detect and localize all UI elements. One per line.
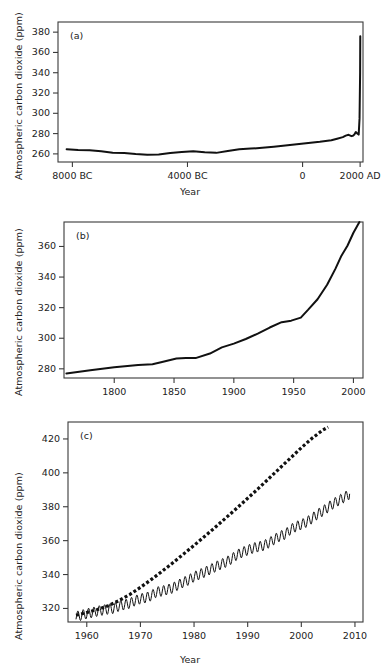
y-tick-label: 300 bbox=[18, 107, 50, 118]
panel-c-x-axis-label: Year bbox=[0, 654, 380, 665]
y-tick-label: 360 bbox=[24, 240, 56, 251]
y-tick-label: 380 bbox=[28, 501, 60, 512]
panel-b-plot bbox=[0, 200, 380, 410]
y-tick-label: 320 bbox=[28, 602, 60, 613]
y-tick-label: 340 bbox=[24, 271, 56, 282]
y-tick-label: 320 bbox=[24, 302, 56, 313]
y-tick-label: 380 bbox=[18, 26, 50, 37]
y-tick-label: 340 bbox=[18, 67, 50, 78]
y-tick-label: 400 bbox=[28, 467, 60, 478]
panel-a-tag: (a) bbox=[70, 30, 83, 41]
panel-a: Atmospheric carbon dioxide (ppm) (a) Yea… bbox=[0, 0, 380, 200]
x-tick-label: 2000 AD bbox=[325, 170, 385, 181]
y-tick-label: 420 bbox=[28, 433, 60, 444]
panel-a-x-axis-label: Year bbox=[0, 186, 380, 197]
y-tick-label: 360 bbox=[18, 46, 50, 57]
y-tick-label: 300 bbox=[24, 332, 56, 343]
x-tick-label: 4000 BC bbox=[152, 170, 222, 181]
y-tick-label: 260 bbox=[18, 148, 50, 159]
x-tick-label: 2010 bbox=[320, 630, 385, 641]
y-tick-label: 340 bbox=[28, 569, 60, 580]
panel-c-tag: (c) bbox=[80, 430, 93, 441]
y-tick-label: 360 bbox=[28, 535, 60, 546]
x-tick-label: 2000 bbox=[318, 386, 385, 397]
y-tick-label: 320 bbox=[18, 87, 50, 98]
panel-b: Atmospheric carbon dioxide (ppm) (b) 280… bbox=[0, 200, 380, 410]
y-tick-label: 280 bbox=[24, 363, 56, 374]
x-tick-label: 8000 BC bbox=[37, 170, 107, 181]
panel-c: Atmospheric carbon dioxide (ppm) (c) Yea… bbox=[0, 410, 380, 672]
y-tick-label: 280 bbox=[18, 128, 50, 139]
panel-b-tag: (b) bbox=[76, 230, 89, 241]
